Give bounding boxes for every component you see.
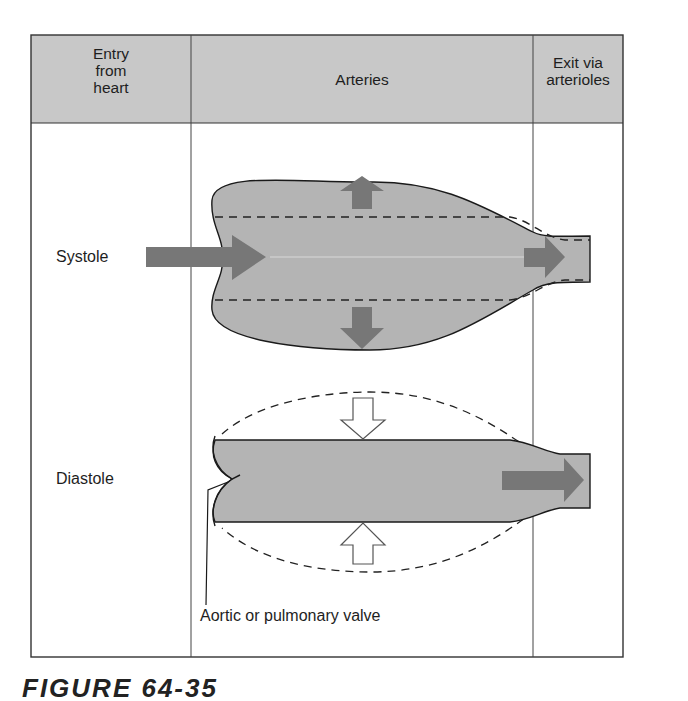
column-header-arteries: Arteries: [191, 71, 533, 88]
header-line: Entry: [31, 45, 191, 62]
header-line: Arteries: [191, 71, 533, 88]
column-header-entry: Entry from heart: [31, 45, 191, 96]
valve-callout-label: Aortic or pulmonary valve: [200, 607, 381, 625]
figure-caption: FIGURE 64-35: [22, 673, 218, 701]
column-header-exit: Exit via arterioles: [533, 54, 623, 88]
diastole-recoil-up-arrow: [341, 523, 385, 564]
row-label-systole: Systole: [56, 248, 108, 266]
header-line: Exit via: [533, 54, 623, 71]
row-label-diastole: Diastole: [56, 470, 114, 488]
diastole-recoil-down-arrow: [341, 398, 385, 439]
header-line: from: [31, 62, 191, 79]
header-line: arterioles: [533, 71, 623, 88]
header-line: heart: [31, 79, 191, 96]
